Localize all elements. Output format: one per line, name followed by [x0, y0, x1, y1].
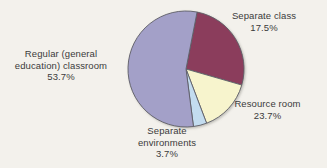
pie-label-separate-class-line1: Separate class — [205, 10, 323, 22]
pie-label-resource-room-percent: 23.7% — [210, 110, 325, 122]
pie-label-separate-environments: Separate environments 3.7% — [117, 125, 217, 160]
pie-label-separate-class: Separate class 17.5% — [205, 10, 323, 33]
pie-label-resource-room: Resource room 23.7% — [210, 98, 325, 121]
pie-label-regular-classroom-percent: 53.7% — [6, 71, 116, 83]
pie-chart-figure: Regular (general education) classroom 53… — [0, 0, 327, 168]
pie-label-regular-classroom: Regular (general education) classroom 53… — [6, 48, 116, 83]
pie-label-separate-environments-line2: environments — [117, 137, 217, 149]
pie-label-resource-room-line1: Resource room — [210, 98, 325, 110]
pie-label-separate-class-percent: 17.5% — [205, 22, 323, 34]
pie-label-regular-classroom-line2: education) classroom — [6, 60, 116, 72]
pie-label-separate-environments-line1: Separate — [117, 125, 217, 137]
pie-label-separate-environments-percent: 3.7% — [117, 148, 217, 160]
pie-label-regular-classroom-line1: Regular (general — [6, 48, 116, 60]
